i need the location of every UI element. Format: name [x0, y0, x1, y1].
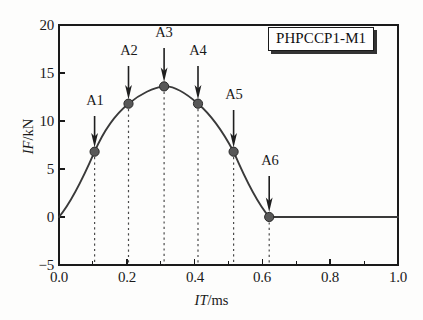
- x-axis-title-unit: /ms: [207, 292, 228, 308]
- arrow-a1: [91, 116, 98, 148]
- x-tick-label-0.8: 0.8: [321, 269, 339, 286]
- legend-box: PHPCCP1-M1: [268, 27, 374, 51]
- data-point-a5[interactable]: [229, 147, 238, 156]
- plot-frame: [59, 25, 398, 265]
- y-tick-label-20: 20: [16, 17, 54, 34]
- y-tick-label-15: 15: [16, 65, 54, 82]
- arrow-a2: [125, 66, 132, 100]
- force-time-chart-figure: 20 15 10 5 0 −5 0.0 0.2 0.4 0.6 0.8 1.0 …: [0, 0, 423, 320]
- annotation-label-a6: A6: [261, 152, 279, 169]
- arrow-a4: [195, 66, 202, 100]
- arrow-a3: [161, 48, 168, 82]
- data-point-a4[interactable]: [193, 99, 202, 108]
- annotation-label-a1: A1: [86, 92, 104, 109]
- y-axis-title: IF/kN: [20, 102, 37, 172]
- annotation-label-a4: A4: [189, 42, 207, 59]
- x-axis-title-symbol: IT: [195, 292, 208, 308]
- x-tick-label-0.2: 0.2: [118, 269, 136, 286]
- annotation-label-a2: A2: [120, 42, 138, 59]
- x-tick-label-0.6: 0.6: [253, 269, 271, 286]
- data-point-a3[interactable]: [160, 82, 169, 91]
- legend-label: PHPCCP1-M1: [276, 30, 366, 46]
- annotation-arrows: [91, 48, 272, 212]
- y-tick-label-minus5: −5: [12, 257, 54, 274]
- data-point-a6[interactable]: [265, 212, 274, 221]
- arrow-a6: [266, 176, 273, 212]
- annotation-label-a5: A5: [225, 86, 243, 103]
- y-axis-ticks: [59, 25, 65, 265]
- annotation-label-a3: A3: [155, 24, 173, 41]
- y-tick-label-0: 0: [16, 209, 54, 226]
- x-axis-title: IT/ms: [0, 292, 423, 309]
- y-axis-title-symbol: IF: [20, 141, 36, 155]
- x-tick-label-1.0: 1.0: [389, 269, 407, 286]
- arrow-a5: [230, 110, 237, 148]
- force-curve: [59, 86, 398, 217]
- marker-droplines: [95, 86, 270, 265]
- data-point-a1[interactable]: [90, 147, 99, 156]
- x-tick-label-0.4: 0.4: [186, 269, 204, 286]
- y-axis-title-unit: /kN: [20, 119, 36, 141]
- data-point-a2[interactable]: [124, 99, 133, 108]
- x-tick-label-0.0: 0.0: [50, 269, 68, 286]
- data-point-markers: [90, 82, 274, 222]
- axes-border: [59, 25, 398, 265]
